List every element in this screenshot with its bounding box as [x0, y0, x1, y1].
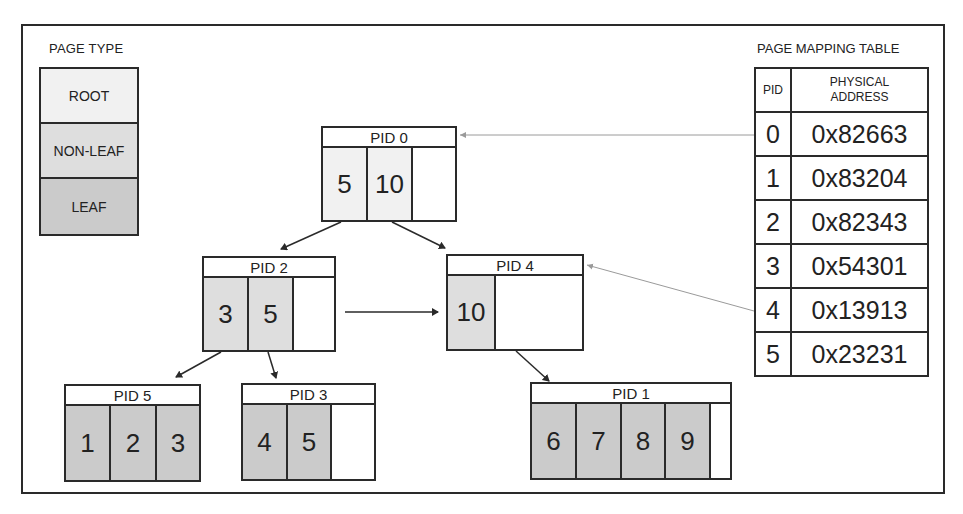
table-row: 00x82663	[755, 112, 928, 156]
edge-pid4-pid1	[516, 351, 549, 381]
key-cell: 10	[368, 148, 413, 220]
mapping-table-title: PAGE MAPPING TABLE	[757, 41, 899, 56]
key-cell: 7	[577, 404, 622, 478]
legend-non-leaf: NON-LEAF	[41, 124, 137, 179]
table-row: 40x13913	[755, 288, 928, 332]
map-edge-4	[587, 265, 754, 311]
key-cell: 5	[288, 405, 332, 479]
page-type-legend: ROOT NON-LEAF LEAF	[39, 67, 139, 236]
table-row: 30x54301	[755, 244, 928, 288]
table-row: 50x23231	[755, 332, 928, 376]
legend-root: ROOT	[41, 69, 137, 124]
node-pid-4: PID 4 10	[446, 254, 584, 351]
address-header: PHYSICAL ADDRESS	[791, 68, 928, 112]
table-row: 10x83204	[755, 156, 928, 200]
node-header: PID 0	[323, 128, 455, 148]
node-header: PID 5	[66, 386, 199, 406]
node-header: PID 3	[243, 385, 374, 405]
key-cell: 8	[622, 404, 666, 478]
node-pid-0: PID 0 5 10	[321, 126, 457, 222]
legend-leaf: LEAF	[41, 179, 137, 234]
empty-cell	[711, 404, 730, 478]
key-cell: 5	[249, 278, 294, 350]
node-pid-1: PID 1 6 7 8 9	[530, 382, 732, 480]
key-cell: 5	[323, 148, 368, 220]
key-cell: 9	[666, 404, 711, 478]
legend-title: PAGE TYPE	[49, 41, 123, 56]
node-header: PID 1	[532, 384, 730, 404]
edge-pid0-pid4	[392, 222, 445, 248]
key-cell: 2	[111, 406, 157, 480]
edge-pid0-pid2	[281, 222, 341, 249]
node-pid-2: PID 2 3 5	[202, 256, 336, 352]
page-mapping-table: PID PHYSICAL ADDRESS 00x82663 10x83204 2…	[754, 67, 929, 377]
key-cell: 1	[66, 406, 111, 480]
edge-pid2-pid3	[268, 352, 276, 378]
node-header: PID 2	[204, 258, 334, 278]
table-row: 20x82343	[755, 200, 928, 244]
node-header: PID 4	[448, 256, 582, 276]
edge-pid2-pid5	[176, 352, 221, 377]
empty-cell	[332, 405, 374, 479]
empty-cell	[294, 278, 334, 350]
empty-cell	[496, 276, 582, 349]
node-pid-3: PID 3 4 5	[241, 383, 376, 481]
key-cell: 6	[532, 404, 577, 478]
node-pid-5: PID 5 1 2 3	[64, 384, 201, 482]
key-cell: 3	[157, 406, 199, 480]
table-header-row: PID PHYSICAL ADDRESS	[755, 68, 928, 112]
key-cell: 4	[243, 405, 288, 479]
key-cell: 3	[204, 278, 249, 350]
pid-header: PID	[755, 68, 791, 112]
key-cell: 10	[448, 276, 496, 349]
empty-cell	[413, 148, 455, 220]
